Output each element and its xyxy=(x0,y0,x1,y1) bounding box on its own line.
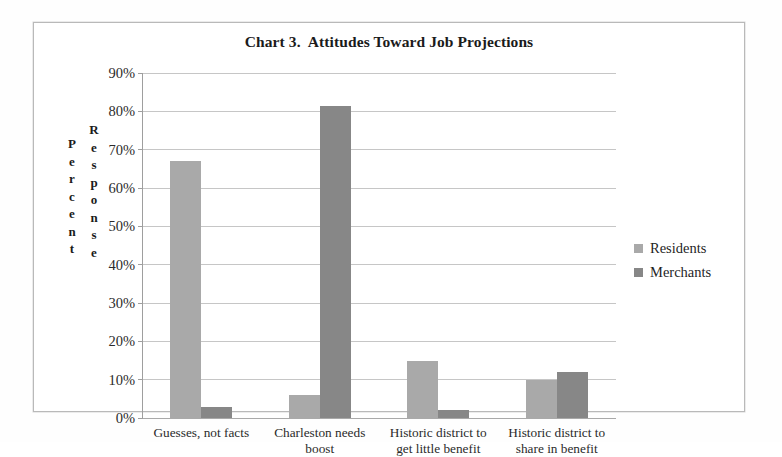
gridline xyxy=(142,188,616,189)
legend-label: Merchants xyxy=(650,264,711,281)
gridlines xyxy=(142,73,616,418)
bar-merchants-1 xyxy=(201,407,232,419)
y-axis-title-letter: s xyxy=(91,156,96,174)
y-axis-title-letter: n xyxy=(68,223,75,241)
bar-residents-4 xyxy=(526,380,557,418)
x-axis-category-label: Historic district toget little benefit xyxy=(375,425,502,457)
bar-merchants-3 xyxy=(438,410,469,418)
y-axis-tick-label: 0% xyxy=(116,410,135,427)
gridline xyxy=(142,341,616,342)
legend-item-residents[interactable]: Residents xyxy=(634,236,711,260)
gridline xyxy=(142,226,616,227)
x-axis-category-label-line: Historic district to xyxy=(375,425,502,441)
gridline xyxy=(142,149,616,150)
y-axis-title-letter: t xyxy=(70,240,74,258)
plot-area: 0%10%20%30%40%50%60%70%80%90% Guesses, n… xyxy=(142,73,616,418)
y-axis-title-percent: Percent xyxy=(64,135,80,258)
y-axis-title-letter: o xyxy=(91,191,98,209)
chart-legend: ResidentsMerchants xyxy=(634,236,711,284)
bar-residents-2 xyxy=(289,395,320,418)
y-axis-tick xyxy=(138,149,142,150)
x-axis-category-label: Historic district toshare in benefit xyxy=(494,425,621,457)
gridline xyxy=(142,264,616,265)
y-axis-tick xyxy=(138,418,142,419)
gridline xyxy=(142,73,616,74)
x-axis-category-label-line: share in benefit xyxy=(494,441,621,457)
y-axis-tick-label: 30% xyxy=(108,295,135,312)
y-axis-title-letter: e xyxy=(91,139,97,157)
y-axis-title-letter: r xyxy=(69,170,75,188)
chart-title: Chart 3. Attitudes Toward Job Projection… xyxy=(34,33,744,51)
x-axis-category-label-line: Historic district to xyxy=(494,425,621,441)
y-axis-tick-label: 40% xyxy=(108,256,135,273)
y-axis-title-letter: s xyxy=(91,226,96,244)
legend-swatch-icon xyxy=(634,244,643,253)
y-axis-title-letter: e xyxy=(69,205,75,223)
y-axis-title-letter: e xyxy=(69,153,75,171)
y-axis-title-letter: e xyxy=(91,244,97,262)
y-axis-title-letter: R xyxy=(89,121,98,139)
y-axis-title-letter: P xyxy=(68,135,76,153)
bar-residents-1 xyxy=(170,161,201,418)
x-axis-category-label: Charleston needsboost xyxy=(257,425,384,457)
bar-merchants-2 xyxy=(320,106,351,418)
x-axis-category-label-line: get little benefit xyxy=(375,441,502,457)
gridline xyxy=(142,303,616,304)
x-axis-category-label-line: Guesses, not facts xyxy=(138,425,265,441)
chart-frame: Chart 3. Attitudes Toward Job Projection… xyxy=(33,22,745,412)
y-axis-tick xyxy=(138,188,142,189)
y-axis-tick xyxy=(138,303,142,304)
legend-item-merchants[interactable]: Merchants xyxy=(634,260,711,284)
legend-swatch-icon xyxy=(634,268,643,277)
y-axis-tick xyxy=(138,379,142,380)
x-axis-category-label-line: Charleston needs xyxy=(257,425,384,441)
y-axis-tick-label: 90% xyxy=(108,65,135,82)
x-axis-category-label: Guesses, not facts xyxy=(138,425,265,441)
y-axis-tick-label: 50% xyxy=(108,218,135,235)
y-axis-title-letter: n xyxy=(90,209,97,227)
legend-label: Residents xyxy=(650,240,706,257)
y-axis-tick-label: 10% xyxy=(108,371,135,388)
bar-residents-3 xyxy=(407,361,438,419)
gridline xyxy=(142,111,616,112)
y-axis-title-response: Response xyxy=(86,121,102,261)
y-axis-tick-label: 60% xyxy=(108,180,135,197)
y-axis-tick-label: 80% xyxy=(108,103,135,120)
y-axis-tick xyxy=(138,264,142,265)
y-axis-tick xyxy=(138,73,142,74)
x-axis-category-label-line: boost xyxy=(257,441,384,457)
bar-merchants-4 xyxy=(557,372,588,418)
y-axis-tick-label: 20% xyxy=(108,333,135,350)
y-axis-tick xyxy=(138,226,142,227)
y-axis-title-letter: c xyxy=(69,188,75,206)
y-axis-tick xyxy=(138,111,142,112)
y-axis-line xyxy=(142,73,143,419)
y-axis-title-letter: p xyxy=(90,174,97,192)
y-axis-tick xyxy=(138,341,142,342)
y-axis-tick-label: 70% xyxy=(108,141,135,158)
